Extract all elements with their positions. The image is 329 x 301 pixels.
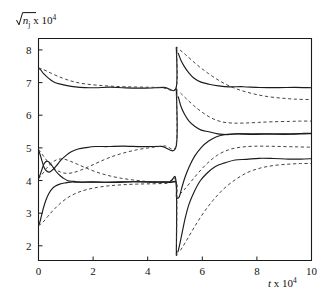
y-tick-label-8: 8	[26, 44, 32, 56]
y-tick-label-6: 6	[26, 109, 32, 121]
x-tick-label-10: 10	[306, 265, 318, 277]
series-mode-2-dashed-seg2	[180, 93, 311, 123]
y-label-mult: x 10	[30, 14, 53, 26]
y-axis-label: nj x 104	[17, 13, 57, 29]
y-label-exponent: 4	[52, 13, 56, 22]
series-mode-2-solid-seg2	[178, 97, 311, 135]
y-tick-label-7: 7	[26, 77, 32, 89]
series-mode-4-dashed-seg2	[180, 163, 311, 250]
x-tick-label-6: 6	[200, 265, 206, 277]
x-tick-label-4: 4	[145, 265, 151, 277]
series-mode-4-solid-seg2	[178, 158, 312, 251]
series-mode-2-solid-seg1	[39, 89, 178, 172]
svg-text:nj x 104: nj x 104	[23, 13, 57, 29]
y-tick-label-2: 2	[26, 240, 32, 252]
series-mode-4-dashed-seg1	[39, 178, 177, 255]
x-label-mult: x 10	[271, 277, 294, 289]
x-axis-label: t x 104	[268, 276, 297, 289]
y-tick-label-4: 4	[26, 175, 32, 187]
series-mode-4-solid-seg1	[39, 176, 177, 255]
y-tick-label-5: 5	[26, 142, 32, 154]
series-mode-3-dashed-seg2	[180, 146, 312, 194]
series-mode-1-solid-seg1	[39, 47, 178, 90]
axis-ticks	[39, 50, 312, 261]
line-chart: 02468102345678 nj x 104 t x 104	[0, 0, 329, 301]
figure-container: 02468102345678 nj x 104 t x 104	[0, 0, 329, 301]
y-tick-label-3: 3	[26, 207, 32, 219]
series-mode-2-dashed-seg1	[39, 89, 178, 173]
x-tick-label-2: 2	[90, 265, 96, 277]
x-tick-label-8: 8	[254, 265, 260, 277]
svg-text:t x 104: t x 104	[268, 276, 297, 289]
curves-layer	[39, 47, 312, 255]
series-mode-3-dashed-seg1	[39, 159, 178, 196]
series-mode-3-solid-seg1	[39, 161, 177, 196]
series-mode-3-solid-seg2	[178, 133, 312, 198]
x-tick-label-0: 0	[36, 265, 42, 277]
series-mode-1-dashed-seg2	[180, 50, 312, 100]
x-label-exponent: 4	[293, 276, 297, 285]
series-mode-1-solid-seg2	[178, 53, 311, 87]
axis-tick-labels: 02468102345678	[26, 44, 318, 277]
